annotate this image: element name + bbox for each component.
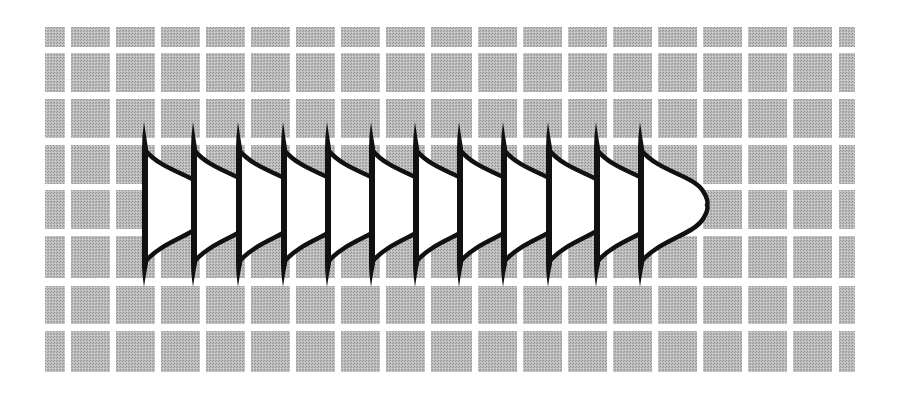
grid-cell bbox=[839, 53, 855, 92]
grid-cell bbox=[71, 145, 110, 184]
grid-cell bbox=[341, 99, 380, 138]
grid-cell bbox=[45, 27, 65, 47]
grid-cell bbox=[658, 331, 697, 372]
grid-cell bbox=[71, 27, 110, 47]
grid-cell bbox=[703, 27, 742, 47]
grid-cell bbox=[748, 53, 787, 92]
grid-cell bbox=[45, 236, 65, 278]
grid-cell bbox=[703, 145, 742, 184]
grid-cell bbox=[431, 286, 472, 324]
grid-cell bbox=[71, 331, 110, 372]
grid-cell bbox=[116, 99, 155, 138]
grid-cell bbox=[206, 286, 245, 324]
grid-cell bbox=[748, 331, 787, 372]
grid-cell bbox=[71, 99, 110, 138]
grid-cell bbox=[251, 53, 290, 92]
grid-cell bbox=[703, 331, 742, 372]
grid-cell bbox=[568, 53, 607, 92]
grid-cell bbox=[45, 331, 65, 372]
grid-cell bbox=[71, 286, 110, 324]
grid-cell bbox=[296, 27, 335, 47]
grid-cell bbox=[341, 27, 380, 47]
grid-cell bbox=[71, 190, 110, 229]
grid-cell bbox=[613, 27, 652, 47]
grid-cell bbox=[478, 99, 517, 138]
grid-cell bbox=[793, 99, 832, 138]
grid-cell bbox=[568, 27, 607, 47]
grid-cell bbox=[839, 27, 855, 47]
grid-cell bbox=[116, 286, 155, 324]
grid-cell bbox=[431, 99, 472, 138]
grid-cell bbox=[116, 331, 155, 372]
grid-cell bbox=[748, 236, 787, 278]
grid-cell bbox=[748, 190, 787, 229]
grid-cell bbox=[839, 145, 855, 184]
grid-cell bbox=[251, 331, 290, 372]
grid-cell bbox=[341, 331, 380, 372]
grid-cell bbox=[748, 99, 787, 138]
grid-cell bbox=[116, 27, 155, 47]
grid-cell bbox=[568, 331, 607, 372]
grid-cell bbox=[613, 286, 652, 324]
grid-cell bbox=[341, 53, 380, 92]
grid-cell bbox=[748, 286, 787, 324]
grid-cell bbox=[839, 286, 855, 324]
grid-cell bbox=[161, 27, 200, 47]
grid-cell bbox=[45, 53, 65, 92]
grid-cell bbox=[793, 331, 832, 372]
grid-cell bbox=[206, 331, 245, 372]
grid-cell bbox=[793, 286, 832, 324]
grid-cell bbox=[793, 27, 832, 47]
grid-cell bbox=[386, 27, 425, 47]
grid-cell bbox=[703, 99, 742, 138]
grid-cell bbox=[839, 99, 855, 138]
grid-cell bbox=[161, 286, 200, 324]
grid-cell bbox=[523, 53, 562, 92]
grid-cell bbox=[793, 236, 832, 278]
grid-cell bbox=[748, 27, 787, 47]
grid-cell bbox=[45, 99, 65, 138]
grid-cell bbox=[161, 331, 200, 372]
grid-cell bbox=[613, 331, 652, 372]
grid-cell bbox=[251, 27, 290, 47]
grid-cell bbox=[431, 53, 472, 92]
diagram-canvas bbox=[0, 0, 901, 395]
grid-cell bbox=[839, 236, 855, 278]
grid-cell bbox=[478, 331, 517, 372]
grid-cell bbox=[703, 53, 742, 92]
grid-cell bbox=[116, 53, 155, 92]
grid-cell bbox=[296, 53, 335, 92]
grid-cell bbox=[478, 53, 517, 92]
grid-cell bbox=[658, 286, 697, 324]
grid-cell bbox=[161, 53, 200, 92]
grid-cell bbox=[341, 286, 380, 324]
grid-cell bbox=[703, 286, 742, 324]
grid-cell bbox=[568, 99, 607, 138]
grid-cell bbox=[613, 53, 652, 92]
grid-cell bbox=[386, 286, 425, 324]
grid-cell bbox=[703, 236, 742, 278]
grid-cell bbox=[523, 331, 562, 372]
grid-cell bbox=[523, 99, 562, 138]
grid-cell bbox=[45, 286, 65, 324]
grid-cell bbox=[523, 27, 562, 47]
grid-cell bbox=[296, 331, 335, 372]
grid-cell bbox=[431, 27, 472, 47]
grid-cell bbox=[748, 145, 787, 184]
grid-cell bbox=[296, 286, 335, 324]
grid-cell bbox=[45, 145, 65, 184]
grid-cell bbox=[206, 53, 245, 92]
grid-cell bbox=[478, 27, 517, 47]
grid-cell bbox=[386, 331, 425, 372]
grid-cell bbox=[523, 286, 562, 324]
grid-cell bbox=[658, 99, 697, 138]
grid-cell bbox=[658, 27, 697, 47]
grid-cell bbox=[386, 53, 425, 92]
grid-cell bbox=[71, 236, 110, 278]
grid-cell bbox=[206, 27, 245, 47]
grid-cell bbox=[386, 99, 425, 138]
grid-cell bbox=[478, 286, 517, 324]
grid-cell bbox=[71, 53, 110, 92]
grid-cell bbox=[251, 286, 290, 324]
grid-cell bbox=[568, 286, 607, 324]
